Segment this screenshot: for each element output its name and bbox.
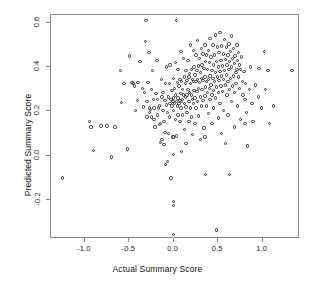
data-point (150, 88, 153, 91)
data-point (229, 50, 232, 53)
data-point (208, 98, 211, 101)
data-point (218, 31, 221, 34)
data-point (153, 125, 156, 128)
data-point (210, 122, 213, 125)
data-point (152, 106, 155, 109)
data-point (174, 118, 177, 121)
y-tick-mark (46, 66, 50, 67)
data-point (223, 38, 226, 41)
data-point (238, 87, 241, 90)
data-point (272, 104, 275, 107)
x-tick-label: 0.5 (212, 244, 223, 253)
data-point (177, 84, 180, 87)
data-point (213, 80, 216, 83)
data-point (204, 173, 207, 176)
data-point (204, 85, 207, 88)
data-point (222, 52, 225, 55)
data-point (243, 122, 246, 125)
data-point (189, 43, 192, 46)
data-point (228, 60, 231, 63)
data-point (212, 63, 215, 66)
data-point (203, 94, 206, 97)
data-point (182, 57, 185, 60)
data-point (220, 132, 223, 135)
data-point (222, 78, 225, 81)
data-point (224, 142, 227, 145)
data-point (194, 53, 197, 56)
data-point (190, 115, 193, 118)
data-point (89, 125, 92, 128)
data-point (260, 106, 263, 109)
data-point (224, 58, 227, 61)
x-tick-label: 0.0 (167, 244, 178, 253)
data-point (220, 44, 223, 47)
data-point (134, 109, 137, 112)
data-point (155, 59, 158, 62)
data-point (239, 118, 242, 121)
data-point (232, 47, 235, 50)
data-point (205, 104, 208, 107)
data-point (228, 88, 231, 91)
data-point (192, 49, 195, 52)
data-point (152, 118, 155, 121)
data-point (250, 102, 253, 105)
data-point (240, 55, 243, 58)
data-point (214, 33, 217, 36)
data-point (219, 84, 222, 87)
data-point (110, 155, 113, 158)
y-tick-mark (46, 22, 50, 23)
data-point (227, 42, 230, 45)
data-point (218, 102, 221, 105)
data-point (192, 102, 195, 105)
data-point (204, 60, 207, 63)
data-point (188, 72, 191, 75)
data-point (213, 53, 216, 56)
data-point (156, 98, 159, 101)
data-point (211, 43, 214, 46)
data-point (143, 91, 146, 94)
data-point (236, 59, 239, 62)
data-point (161, 91, 164, 94)
data-point (179, 106, 182, 109)
data-point (223, 69, 226, 72)
data-point (199, 138, 202, 141)
data-point (208, 87, 211, 90)
data-point (168, 63, 171, 66)
data-point (266, 69, 269, 72)
data-point (264, 88, 267, 91)
data-point (225, 63, 228, 66)
data-point (206, 68, 209, 71)
data-point (215, 85, 218, 88)
data-point (236, 104, 239, 107)
data-point (233, 91, 236, 94)
data-point (207, 78, 210, 81)
data-point (146, 81, 149, 84)
plot-area (50, 14, 299, 238)
data-point (147, 51, 150, 54)
data-point (178, 120, 181, 123)
data-point (187, 120, 190, 123)
x-tick-label: 1.0 (256, 244, 267, 253)
data-point (184, 82, 187, 85)
y-tick-mark (46, 155, 50, 156)
data-point (230, 65, 233, 68)
data-point (226, 80, 229, 83)
data-point (196, 39, 199, 42)
x-tick-label: -1.0 (77, 244, 90, 253)
y-tick-label: 0.2 (32, 105, 41, 116)
data-point (238, 63, 241, 66)
x-axis-label: Actual Summary Score (0, 264, 315, 274)
data-point (145, 100, 148, 103)
data-point (244, 82, 247, 85)
data-point (217, 51, 220, 54)
x-tick-mark (262, 238, 263, 242)
data-point (61, 176, 64, 179)
data-point (162, 120, 165, 123)
y-tick-label: 0.0 (32, 149, 41, 160)
data-point (228, 173, 231, 176)
data-point (257, 67, 260, 70)
data-point (230, 34, 233, 37)
data-point (248, 88, 251, 91)
y-tick-mark (46, 110, 50, 111)
data-point (133, 84, 136, 87)
